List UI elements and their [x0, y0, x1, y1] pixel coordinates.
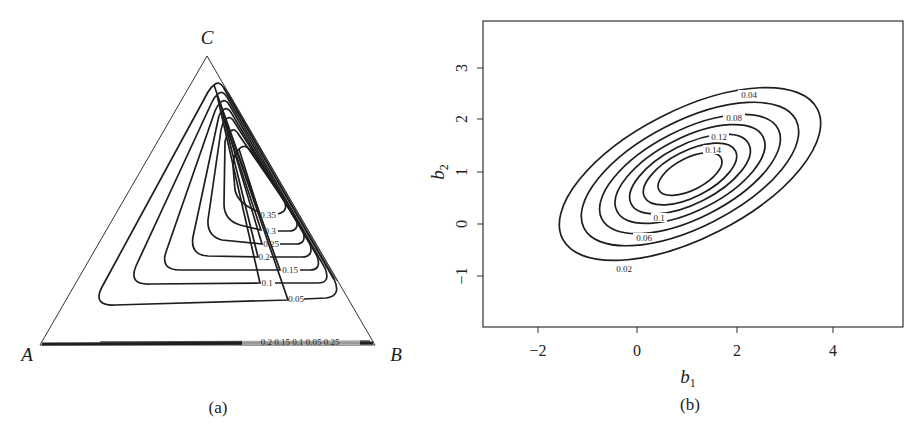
contour-label: 0.35 — [260, 210, 276, 220]
ternary-contours — [99, 83, 337, 305]
contour-label: 0.02 — [616, 264, 632, 274]
contour-0.02 — [534, 52, 847, 296]
ellipse-contours — [534, 52, 847, 296]
panel-a: 0.35 0.3 0.25 0.2 0.15 0.1 0.05 0.2 0.15… — [19, 27, 402, 417]
contour-0.12 — [634, 130, 746, 217]
contour-label: 0.1 — [261, 278, 272, 288]
vertex-label-c: C — [201, 27, 214, 48]
contour-0.2 — [193, 109, 311, 257]
contour-label: 0.3 — [264, 226, 276, 236]
contour-0.25 — [208, 118, 304, 244]
panel-b: −2 0 2 4 b1 −1 0 1 2 3 b2 — [427, 21, 903, 414]
y-tick-label: 2 — [453, 115, 470, 123]
contour-label: 0.05 — [288, 294, 304, 304]
vertex-label-a: A — [19, 344, 33, 365]
contour-label: 0.04 — [741, 90, 757, 100]
contour-label: 0.2 — [258, 252, 269, 262]
vertex-label-b: B — [390, 344, 402, 365]
x-tick-label: 0 — [633, 342, 641, 359]
x-axis: −2 0 2 4 b1 — [529, 327, 837, 390]
y-axis-label: b2 — [427, 164, 451, 180]
y-tick-label: 1 — [453, 168, 470, 176]
plot-frame — [483, 21, 903, 327]
y-tick-label: 0 — [453, 220, 470, 228]
caption-b: (b) — [680, 395, 700, 414]
caption-a: (a) — [209, 398, 228, 417]
figure-canvas: 0.35 0.3 0.25 0.2 0.15 0.1 0.05 0.2 0.15… — [0, 0, 921, 429]
contour-label: 0.1 — [653, 213, 664, 223]
contour-0.1 — [134, 92, 327, 284]
x-axis-label: b1 — [680, 366, 696, 390]
contour-label: 0.25 — [263, 239, 279, 249]
contour-label: 0.14 — [705, 145, 721, 155]
contour-label: 0.12 — [711, 132, 727, 142]
x-tick-label: −2 — [529, 342, 546, 359]
y-axis: −1 0 1 2 3 b2 — [427, 64, 483, 285]
ab-edge-labels: 0.2 0.15 0.1 0.05 0.25 — [261, 337, 340, 347]
y-tick-label: 3 — [453, 64, 470, 72]
y-tick-label: −1 — [453, 267, 470, 284]
x-tick-label: 4 — [829, 342, 837, 359]
contour-label: 0.08 — [726, 113, 742, 123]
x-tick-label: 2 — [733, 342, 741, 359]
contour-label: 0.06 — [636, 233, 652, 243]
contour-label: 0.15 — [282, 265, 298, 275]
